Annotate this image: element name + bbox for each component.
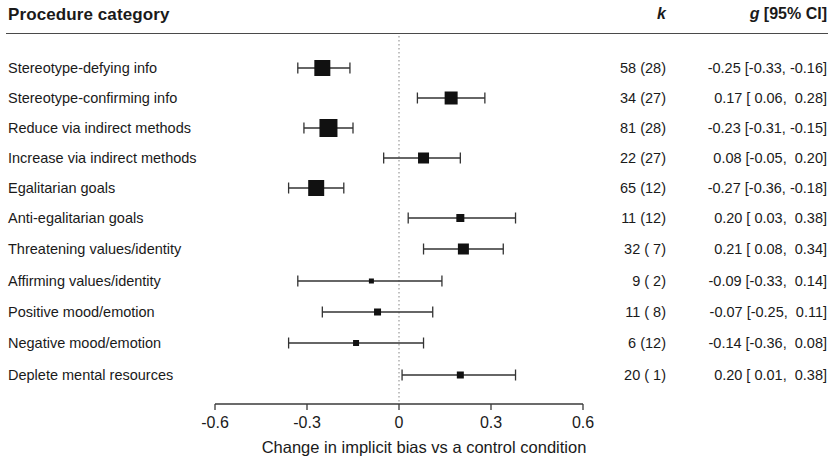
effect-size-marker xyxy=(319,119,337,137)
column-header-k: k xyxy=(600,5,666,23)
row-g-ci-value: -0.14 [-0.36, 0.08] xyxy=(662,335,827,351)
row-label: Egalitarian goals xyxy=(8,180,115,196)
row-g-ci-value: -0.27 [-0.36, -0.18] xyxy=(662,180,827,196)
row-k-value: 81 (28) xyxy=(560,120,666,136)
effect-size-marker xyxy=(457,372,464,379)
row-k-value: 58 (28) xyxy=(560,60,666,76)
row-g-ci-value: 0.20 [ 0.01, 0.38] xyxy=(662,367,827,383)
row-k-value: 34 (27) xyxy=(560,90,666,106)
g-symbol: g xyxy=(750,5,760,22)
row-label: Stereotype-confirming info xyxy=(8,90,177,106)
row-label: Negative mood/emotion xyxy=(8,335,161,351)
forest-row xyxy=(322,307,432,318)
row-label: Deplete mental resources xyxy=(8,367,173,383)
row-g-ci-value: -0.09 [-0.33, 0.14] xyxy=(662,273,827,289)
forest-row xyxy=(402,370,515,381)
x-axis-tick-label: 0.3 xyxy=(461,414,521,432)
row-label: Positive mood/emotion xyxy=(8,304,155,320)
forest-row xyxy=(384,153,461,164)
forest-row xyxy=(298,276,442,287)
row-label: Threatening values/identity xyxy=(8,241,181,257)
row-k-value: 6 (12) xyxy=(560,335,666,351)
forest-row xyxy=(289,180,344,196)
effect-size-marker xyxy=(374,309,381,316)
x-axis-tick-label: 0.6 xyxy=(553,414,613,432)
forest-row xyxy=(417,92,484,105)
x-axis-caption: Change in implicit bias vs a control con… xyxy=(0,438,832,457)
effect-size-marker xyxy=(445,92,458,105)
forest-row xyxy=(289,338,424,349)
x-axis-tick-label: -0.3 xyxy=(277,414,337,432)
row-g-ci-value: 0.21 [ 0.08, 0.34] xyxy=(662,241,827,257)
x-axis-caption-text: Change in implicit bias vs a control con… xyxy=(262,438,587,457)
row-label: Stereotype-defying info xyxy=(8,60,157,76)
row-k-value: 22 (27) xyxy=(560,150,666,166)
forest-row xyxy=(298,60,350,76)
effect-size-marker xyxy=(353,340,359,346)
row-label: Affirming values/identity xyxy=(8,273,161,289)
row-g-ci-value: 0.20 [ 0.03, 0.38] xyxy=(662,210,827,226)
x-axis xyxy=(215,404,583,410)
row-label: Reduce via indirect methods xyxy=(8,120,191,136)
forest-row xyxy=(408,213,515,224)
column-header-g-ci: g [95% CI] xyxy=(672,5,827,23)
x-axis-tick-label: -0.6 xyxy=(185,414,245,432)
row-k-value: 11 (12) xyxy=(560,210,666,226)
row-g-ci-value: 0.17 [ 0.06, 0.28] xyxy=(662,90,827,106)
forest-row xyxy=(424,244,504,255)
row-k-value: 9 ( 2) xyxy=(560,273,666,289)
row-g-ci-value: -0.25 [-0.33, -0.16] xyxy=(662,60,827,76)
effect-size-marker xyxy=(314,60,330,76)
effect-size-marker xyxy=(418,153,429,164)
effect-size-marker xyxy=(308,180,324,196)
header-divider xyxy=(6,33,828,34)
x-axis-tick-label: 0 xyxy=(369,414,429,432)
effect-size-marker xyxy=(458,244,469,255)
g-ci-text: [95% CI] xyxy=(759,5,827,22)
effect-marker-group xyxy=(289,60,516,381)
page-title: Procedure category xyxy=(8,5,169,25)
row-g-ci-value: 0.08 [-0.05, 0.20] xyxy=(662,150,827,166)
row-k-value: 20 ( 1) xyxy=(560,367,666,383)
row-label: Anti-egalitarian goals xyxy=(8,210,143,226)
forest-row xyxy=(304,119,353,137)
forest-plot-figure: Procedure category k g [95% CI] Stereoty… xyxy=(0,0,832,466)
effect-size-marker xyxy=(456,214,464,222)
row-g-ci-value: -0.07 [-0.25, 0.11] xyxy=(662,304,827,320)
row-label: Increase via indirect methods xyxy=(8,150,197,166)
row-k-value: 65 (12) xyxy=(560,180,666,196)
row-k-value: 32 ( 7) xyxy=(560,241,666,257)
row-g-ci-value: -0.23 [-0.31, -0.15] xyxy=(662,120,827,136)
effect-size-marker xyxy=(369,279,374,284)
row-k-value: 11 ( 8) xyxy=(560,304,666,320)
